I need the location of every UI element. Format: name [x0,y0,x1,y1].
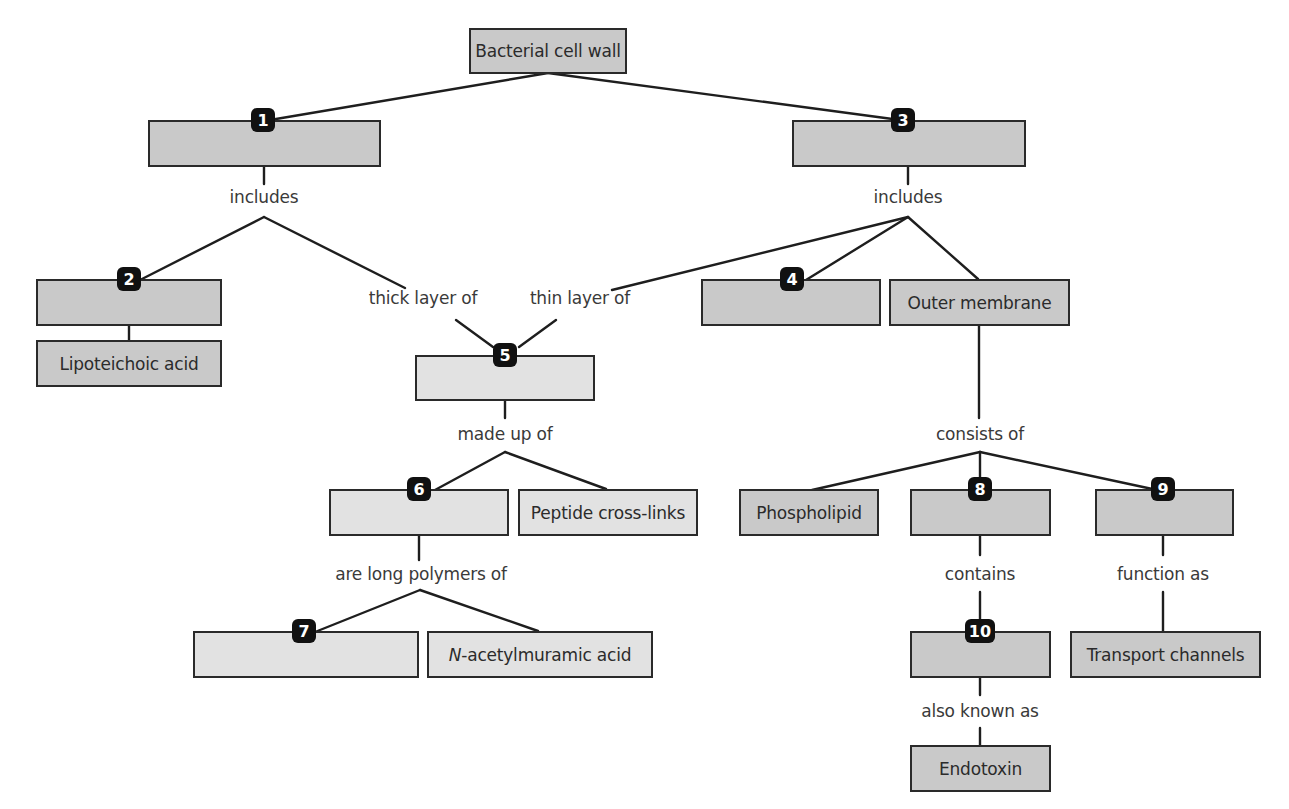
node-label: Lipoteichoic acid [59,354,198,374]
node-label-rest: -acetylmuramic acid [461,645,631,665]
badge-6: 6 [407,477,431,501]
node-lipoteichoic-acid: Lipoteichoic acid [36,340,222,387]
node-outer-membrane: Outer membrane [889,279,1070,326]
link-label-function-as: function as [1117,564,1209,584]
node-label: N-acetylmuramic acid [449,645,632,665]
link-label-also-known-as: also known as [921,701,1039,721]
link-label-thick-layer: thick layer of [369,288,477,308]
node-label: Endotoxin [939,759,1022,779]
link-label-consists-of: consists of [936,424,1024,444]
link-label-includes-right: includes [874,187,943,207]
badge-9: 9 [1151,477,1175,501]
node-bacterial-cell-wall: Bacterial cell wall [469,28,627,74]
link-label-includes-left: includes [230,187,299,207]
badge-10: 10 [965,619,995,643]
italic-n: N [449,645,462,665]
link-label-are-long-polymers-of: are long polymers of [335,564,507,584]
badge-1: 1 [251,108,275,132]
node-transport-channels: Transport channels [1070,631,1261,678]
badge-7: 7 [292,619,316,643]
node-phospholipid: Phospholipid [739,489,879,536]
node-n-acetylmuramic-acid: N-acetylmuramic acid [427,631,653,678]
link-label-made-up-of: made up of [458,424,553,444]
node-label: Bacterial cell wall [475,41,620,61]
link-label-contains: contains [945,564,1015,584]
badge-4: 4 [780,267,804,291]
concept-map: Bacterial cell wall 1 3 includes include… [0,0,1289,809]
badge-8: 8 [968,477,992,501]
node-peptide-cross-links: Peptide cross-links [518,489,698,536]
badge-3: 3 [891,108,915,132]
badge-5: 5 [493,343,517,367]
node-label: Peptide cross-links [531,503,685,523]
node-label: Transport channels [1087,645,1245,665]
node-label: Outer membrane [908,293,1052,313]
link-label-thin-layer: thin layer of [530,288,630,308]
node-label: Phospholipid [756,503,862,523]
node-endotoxin: Endotoxin [910,745,1051,792]
badge-2: 2 [117,267,141,291]
